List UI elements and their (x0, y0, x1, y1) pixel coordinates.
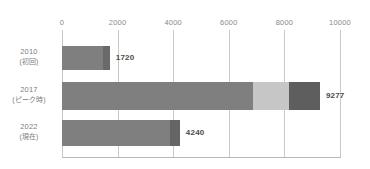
category-label-2017: 2017(ピーク時) (0, 85, 58, 105)
x-tick-label-8000: 8000 (276, 18, 294, 27)
x-tick-label-0: 0 (60, 18, 64, 27)
x-tick-label-4000: 4000 (164, 18, 182, 27)
category-year-2022: 2022 (0, 122, 58, 132)
bar-segment-2010-main (62, 46, 103, 70)
category-sub-2022: (現在) (0, 132, 58, 141)
bar-value-label-2017: 9277 (326, 91, 345, 100)
x-tick-label-6000: 6000 (220, 18, 238, 27)
x-tick-label-2000: 2000 (109, 18, 127, 27)
category-label-2010: 2010(初回) (0, 47, 58, 67)
bar-value-label-2010: 1720 (116, 53, 135, 62)
bar-2010 (62, 46, 110, 70)
x-axis-line (62, 157, 341, 158)
bar-value-label-2022: 4240 (186, 128, 205, 137)
bar-segment-2022-cap (170, 120, 180, 146)
plot-area: 172092774240 (62, 30, 340, 158)
category-sub-2010: (初回) (0, 57, 58, 66)
bar-segment-2017-cap (289, 82, 320, 110)
bar-segment-2017-main (62, 82, 253, 110)
bar-2017 (62, 82, 320, 110)
category-year-2017: 2017 (0, 85, 58, 95)
category-sub-2017: (ピーク時) (0, 95, 58, 104)
category-year-2010: 2010 (0, 47, 58, 57)
bar-segment-2017-light (253, 82, 289, 110)
bar-segment-2022-main (62, 120, 170, 146)
bar-2022 (62, 120, 180, 146)
x-tick-label-10000: 10000 (329, 18, 351, 27)
bar-segment-2010-cap (103, 46, 110, 70)
bar-chart: 0 2000 4000 6000 8000 10000 172092774240… (0, 0, 370, 169)
category-label-2022: 2022(現在) (0, 122, 58, 142)
